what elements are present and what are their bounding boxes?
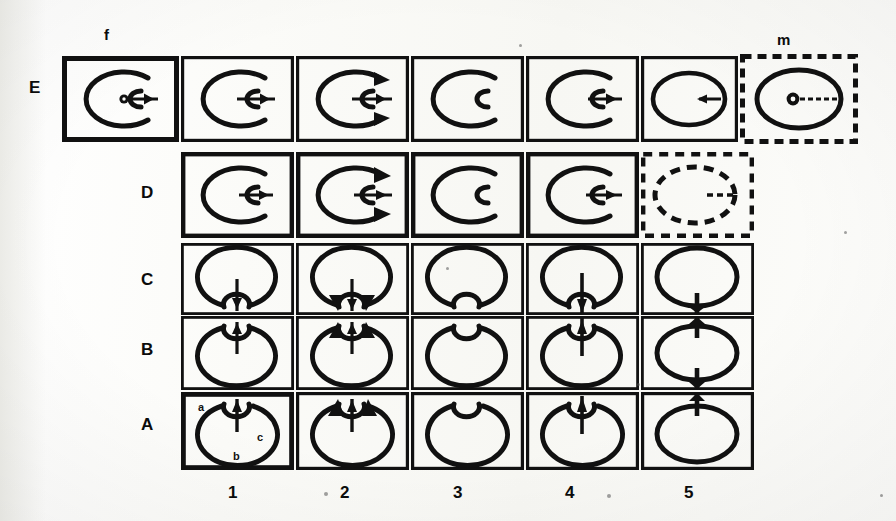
cell-E-5 — [526, 56, 639, 142]
scan-speck — [844, 231, 847, 234]
cell-C-5 — [641, 243, 754, 315]
cell-C-1 — [181, 243, 294, 315]
row-label-D: D — [141, 183, 153, 203]
row-label-C: C — [141, 270, 153, 290]
row-label-E: E — [29, 78, 40, 98]
cell-D-2 — [296, 152, 409, 238]
scan-speck — [519, 44, 522, 47]
inner-label-c: c — [257, 431, 263, 443]
col-label-4: 4 — [565, 483, 574, 503]
col-label-1: 1 — [228, 483, 237, 503]
cell-E-m — [740, 54, 858, 144]
scan-speck — [324, 492, 328, 496]
cell-E-3 — [296, 56, 409, 142]
cell-D-5 — [641, 152, 754, 238]
cell-B-4 — [526, 316, 639, 390]
cell-E-4 — [411, 56, 524, 142]
cell-A-5 — [641, 392, 754, 470]
inner-label-b: b — [233, 450, 240, 462]
col-label-2: 2 — [340, 483, 349, 503]
cell-A-4 — [526, 392, 639, 470]
col-label-5: 5 — [684, 483, 693, 503]
cell-A-2 — [296, 392, 409, 470]
cell-A-3 — [411, 392, 524, 470]
cell-E-2 — [181, 56, 294, 142]
cell-E-6 — [641, 56, 738, 142]
cell-B-5 — [641, 316, 754, 390]
cell-D-1 — [181, 152, 294, 238]
top-label-f: f — [104, 26, 109, 43]
cell-B-3 — [411, 316, 524, 390]
cell-D-4 — [526, 152, 639, 238]
inner-label-a: a — [198, 401, 205, 413]
cell-E-f — [62, 56, 179, 142]
cell-B-2 — [296, 316, 409, 390]
scan-speck — [607, 494, 611, 498]
scan-speck — [446, 267, 449, 270]
scan-speck — [637, 383, 640, 386]
cell-A-1: a c b — [181, 392, 294, 470]
col-label-3: 3 — [453, 483, 462, 503]
cell-B-1 — [181, 316, 294, 390]
cell-C-2 — [296, 243, 409, 315]
row-label-B: B — [141, 340, 153, 360]
cell-C-4 — [526, 243, 639, 315]
cell-D-3 — [411, 152, 524, 238]
row-label-A: A — [141, 415, 153, 435]
top-label-m: m — [777, 31, 790, 48]
cell-C-3 — [411, 243, 524, 315]
scan-speck — [880, 494, 883, 497]
